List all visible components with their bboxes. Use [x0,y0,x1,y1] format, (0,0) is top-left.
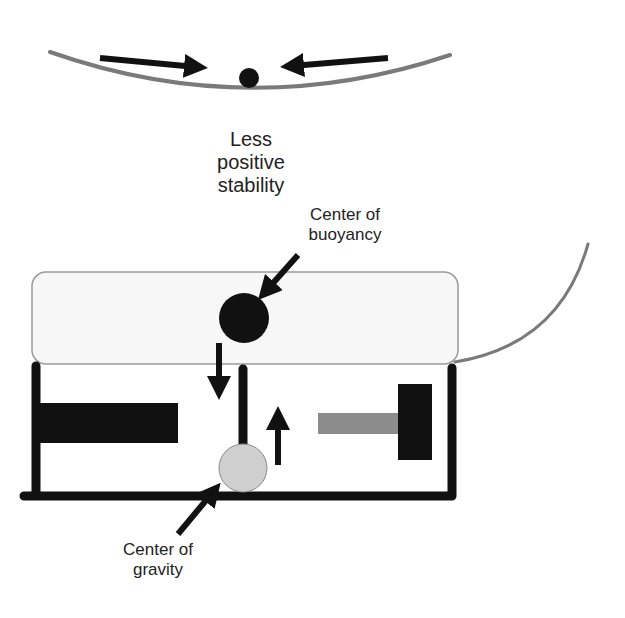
cog-label-line-1: Center of [98,540,218,560]
stability-label-line-3: stability [196,174,306,197]
left-force-arrow [100,58,196,67]
center-of-buoyancy-marker [219,293,269,343]
left-ballast-block [38,403,178,443]
center-of-buoyancy-label: Center of buoyancy [290,205,400,244]
center-of-gravity-label: Center of gravity [98,540,218,579]
right-force-arrow [292,58,388,66]
center-of-gravity-marker [219,444,267,492]
stability-label: Less positive stability [196,128,306,197]
right-weight-block [398,384,432,460]
right-weight-bar [318,413,400,434]
stability-label-line-2: positive [196,151,306,174]
cob-label-line-2: buoyancy [290,225,400,245]
stability-ball [239,68,259,88]
stability-label-line-1: Less [196,128,306,151]
cob-label-line-1: Center of [290,205,400,225]
heel-curve [455,244,588,362]
stability-diagram [0,0,625,618]
cog-label-line-2: gravity [98,560,218,580]
